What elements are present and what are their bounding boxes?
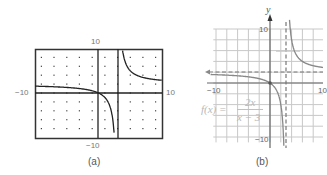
label-ymin: −10: [255, 136, 269, 144]
fraction-bar: [237, 109, 263, 110]
function-numerator: 2x: [245, 97, 255, 108]
origin-point: [268, 81, 272, 85]
label-xmin: −10: [207, 87, 221, 95]
asymptote-arrow-icon: [205, 70, 210, 75]
curve-right-branch: [290, 20, 324, 68]
y-axis-arrow-icon: [268, 14, 273, 21]
caption-b: (b): [256, 157, 268, 167]
function-lhs: f(x) =: [201, 104, 226, 115]
grid-lines: [213, 29, 323, 142]
function-denominator: x − 3: [237, 112, 260, 123]
y-axis-label: y: [266, 4, 270, 15]
label-xmax: 10: [318, 87, 327, 95]
label-ymax: 10: [259, 26, 268, 34]
